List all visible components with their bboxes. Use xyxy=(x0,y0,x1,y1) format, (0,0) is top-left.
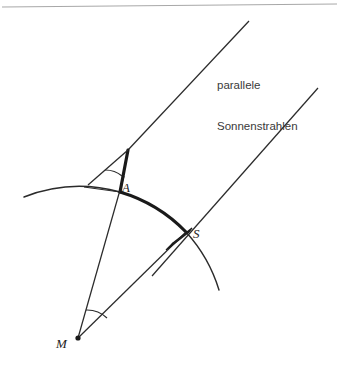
sun-rays-caption: parallele Sonnenstrahlen xyxy=(217,52,298,161)
earth-arc-thin-left xyxy=(24,187,120,197)
angle-arc-at-M xyxy=(86,310,107,318)
caption-line-2: Sonnenstrahlen xyxy=(217,120,298,134)
caption-line-1: parallele xyxy=(217,79,298,93)
earth-arc-thin-right xyxy=(186,232,219,290)
earth-arc-bold-AS xyxy=(120,192,186,232)
rod-marker-at-S xyxy=(170,228,192,247)
point-label-a: A xyxy=(122,180,130,195)
point-label-s: S xyxy=(193,226,200,241)
diagram-canvas: parallele Sonnenstrahlen A S M xyxy=(0,0,339,369)
center-point-dot-M xyxy=(75,335,80,340)
page-rule-line xyxy=(2,4,337,7)
angle-arc-at-A xyxy=(105,170,122,176)
point-label-m: M xyxy=(56,336,67,351)
